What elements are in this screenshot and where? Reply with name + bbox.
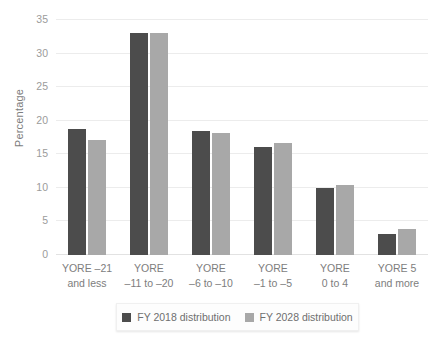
bar (192, 131, 210, 255)
bar-groups (56, 20, 428, 255)
bar-group (68, 20, 106, 255)
y-tick-label: 0 (42, 247, 48, 261)
x-axis-label: YORE 5and more (350, 261, 439, 291)
x-axis-label-line: and more (350, 276, 439, 291)
bar-group (192, 20, 230, 255)
bar (130, 33, 148, 255)
bar-group (378, 20, 416, 255)
legend-label: FY 2018 distribution (137, 311, 230, 323)
legend-item[interactable]: FY 2018 distribution (122, 311, 230, 323)
bar (336, 185, 354, 255)
chart-legend: FY 2018 distributionFY 2028 distribution (116, 303, 359, 331)
x-axis-labels: YORE –21and lessYORE–11 to –20YORE–6 to … (56, 261, 428, 297)
y-axis-title: Percentage (13, 68, 25, 168)
bar-group (130, 20, 168, 255)
legend-swatch-fy2018 (122, 313, 131, 322)
y-tick-label: 10 (36, 180, 48, 194)
legend-label: FY 2028 distribution (260, 311, 353, 323)
bar (150, 33, 168, 255)
legend-item[interactable]: FY 2028 distribution (245, 311, 353, 323)
bar (274, 143, 292, 255)
y-tick-label: 15 (36, 146, 48, 160)
y-tick-label: 25 (36, 79, 48, 93)
bar-group (254, 20, 292, 255)
y-tick-label: 20 (36, 113, 48, 127)
y-tick-label: 35 (36, 12, 48, 26)
y-tick-label: 5 (42, 213, 48, 227)
plot-area: 05101520253035 (56, 20, 428, 255)
x-axis-label-line: YORE 5 (350, 261, 439, 276)
bar (378, 234, 396, 255)
bar (316, 188, 334, 255)
bar (254, 147, 272, 255)
bar (398, 229, 416, 255)
y-tick-label: 30 (36, 46, 48, 60)
bar-group (316, 20, 354, 255)
legend-swatch-fy2028 (245, 313, 254, 322)
bar (212, 133, 230, 255)
bar (68, 129, 86, 255)
bar-chart: Percentage 05101520253035 YORE –21and le… (0, 0, 439, 357)
bar (88, 140, 106, 255)
